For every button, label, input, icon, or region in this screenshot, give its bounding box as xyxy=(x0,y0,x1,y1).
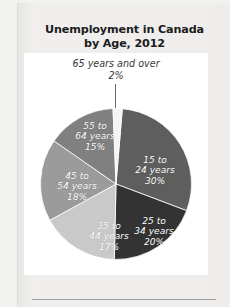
callout-leader-line xyxy=(115,84,116,110)
page-surface: Unemployment in Canada by Age, 2012 65 y… xyxy=(18,3,230,307)
page-title-line2: by Age, 2012 xyxy=(24,37,225,51)
slice-label-45-54-value: 18% xyxy=(46,192,108,202)
chart-plot-area: 65 years and over 2% 15 to 24 years 30% … xyxy=(24,53,208,275)
slice-label-45-54-line1: 45 to xyxy=(46,171,108,181)
slice-callout-65-over: 65 years and over 2% xyxy=(24,58,208,81)
slice-callout-value: 2% xyxy=(24,70,208,82)
slice-label-15-24: 15 to 24 years 30% xyxy=(124,155,186,186)
slice-label-35-44-value: 17% xyxy=(78,242,140,252)
slice-label-55-64-value: 15% xyxy=(64,142,126,152)
slice-label-35-44-line2: 44 years xyxy=(78,231,140,241)
page-title-line1: Unemployment in Canada xyxy=(45,23,204,36)
slice-label-45-54-line2: 54 years xyxy=(46,181,108,191)
slice-label-35-44: 35 to 44 years 17% xyxy=(78,221,140,252)
slice-label-55-64-line2: 64 years xyxy=(64,131,126,141)
page-title: Unemployment in Canada by Age, 2012 xyxy=(24,23,225,50)
slice-callout-label: 65 years and over xyxy=(72,58,159,69)
slice-label-15-24-line2: 24 years xyxy=(124,165,186,175)
slice-label-45-54: 45 to 54 years 18% xyxy=(46,171,108,202)
slice-label-15-24-line1: 15 to xyxy=(124,155,186,165)
slice-label-15-24-value: 30% xyxy=(124,176,186,186)
slice-label-55-64-line1: 55 to xyxy=(64,121,126,131)
document-page: Unemployment in Canada by Age, 2012 65 y… xyxy=(17,3,230,307)
pie-chart: 15 to 24 years 30% 25 to 34 years 20% 35… xyxy=(40,108,192,260)
slice-label-55-64: 55 to 64 years 15% xyxy=(64,121,126,152)
slice-label-35-44-line1: 35 to xyxy=(78,221,140,231)
footer-rule xyxy=(32,299,216,300)
